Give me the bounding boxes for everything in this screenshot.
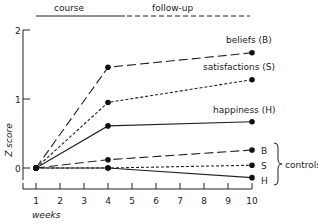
y-axis: 2 1 0 Z score (4, 26, 30, 180)
data-point (105, 100, 111, 106)
series-line-2 (36, 122, 252, 168)
label-satisfactions: satisfactions (S) (203, 62, 275, 72)
controls-brace: controls (274, 143, 318, 185)
data-point (249, 162, 255, 168)
data-point (249, 77, 255, 83)
phase-label-followup: follow-up (152, 3, 193, 13)
x-tick-4: 4 (105, 196, 111, 206)
series-line-3 (36, 150, 252, 168)
x-tick-3: 3 (81, 196, 87, 206)
x-tick-5: 5 (129, 196, 135, 206)
y-axis-label: Z score (4, 123, 14, 158)
label-control-h: H (261, 176, 268, 186)
x-axis-label: weeks (32, 210, 61, 220)
series-labels: beliefs (B) satisfactions (S) happiness … (203, 35, 275, 186)
y-tick-0: 0 (15, 164, 21, 174)
data-point (33, 165, 39, 171)
x-tick-2: 2 (57, 196, 63, 206)
controls-label: controls (285, 160, 318, 170)
line-chart: course follow-up 2 1 0 Z score 123456789… (0, 0, 318, 224)
data-point (105, 123, 111, 129)
data-point (249, 50, 255, 56)
phase-label-course: course (54, 3, 85, 13)
data-point (249, 147, 255, 153)
series-line-5 (36, 168, 252, 178)
x-tick-7: 7 (177, 196, 183, 206)
data-point (105, 64, 111, 70)
x-axis: 12345678910 weeks (23, 183, 258, 220)
y-tick-2: 2 (15, 26, 21, 36)
data-point (105, 165, 111, 171)
label-beliefs: beliefs (B) (226, 35, 272, 45)
series-line-1 (36, 80, 252, 168)
x-tick-1: 1 (33, 196, 39, 206)
data-point (249, 175, 255, 181)
x-tick-8: 8 (201, 196, 207, 206)
phase-bar: course follow-up (36, 3, 250, 16)
label-control-b: B (261, 146, 267, 156)
label-happiness: happiness (H) (213, 105, 275, 115)
x-tick-9: 9 (225, 196, 231, 206)
y-tick-1: 1 (15, 95, 21, 105)
x-tick-10: 10 (246, 196, 258, 206)
data-point (105, 157, 111, 163)
label-control-s: S (261, 161, 267, 171)
data-point (249, 119, 255, 125)
x-tick-6: 6 (153, 196, 159, 206)
